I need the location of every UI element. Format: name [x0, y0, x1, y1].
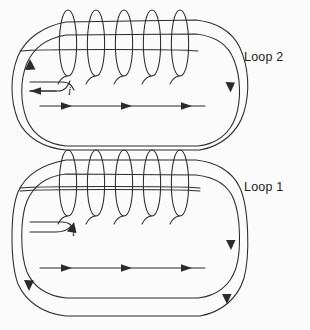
- current-label-loop2: i: [68, 85, 71, 97]
- upper-coil-turn-1: [58, 10, 77, 84]
- loop2-outer-wire: [12, 20, 248, 150]
- loop2-inner-wire: [22, 34, 240, 146]
- loop1-current-arrow-5-icon: [24, 280, 34, 291]
- upper-coil-turn-5: [170, 10, 189, 84]
- loop2-right-current-arrow: [226, 82, 236, 93]
- loop1-current-arrow-2-icon: [121, 264, 132, 272]
- lower-solenoid-coil: [20, 150, 200, 224]
- lower-coil-axis-wire-a: [20, 187, 200, 189]
- loop2-current-arrow-3-icon: [181, 102, 192, 110]
- loop1-current-arrow-1-icon: [61, 264, 72, 272]
- loop2-outer-circuit-path: [12, 20, 248, 150]
- loop1-label: Loop 1: [244, 180, 283, 194]
- loop1-bottom-current-run: [40, 264, 205, 272]
- current-label-loop1: i: [72, 226, 75, 238]
- loop1-current-arrow-3-icon: [181, 264, 192, 272]
- loop1-left-current-arrow: [24, 280, 34, 291]
- loop2-current-arrow-2-icon: [121, 102, 132, 110]
- loop1-current-arrow-4-icon: [226, 240, 236, 250]
- loop2-current-arrow-4-icon: [226, 82, 236, 93]
- lower-coil-axis-wire-b: [20, 190, 200, 192]
- loop1-current-arrow-6-icon: [222, 294, 232, 304]
- loop1-lead-wires: [30, 222, 77, 233]
- loop2-top-current-run: [40, 102, 205, 110]
- loop1-inner-circuit-path: [22, 174, 240, 298]
- loop1-lead-lower-wire: [30, 226, 71, 232]
- physics-diagram-figure: Loop 2 Loop 1 i i: [0, 0, 310, 330]
- loop2-label: Loop 2: [244, 50, 283, 64]
- loop1-right-current-arrows: [222, 240, 236, 304]
- loop1-inner-wire: [22, 174, 240, 298]
- loop2-inner-circuit-path: [22, 34, 240, 146]
- loop2-current-direction-arrow-icon: [30, 87, 41, 95]
- loop2-current-arrow-1-icon: [61, 102, 72, 110]
